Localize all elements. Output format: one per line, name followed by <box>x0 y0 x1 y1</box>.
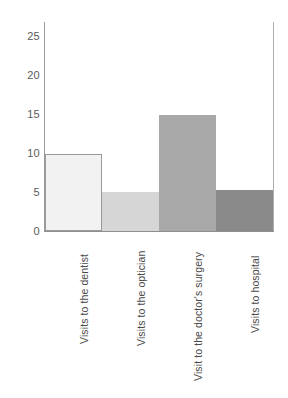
y-axis-tick-label: 10 <box>6 148 40 159</box>
bar-chart: 25 20 15 10 5 0 Visits to the dentist Vi… <box>0 0 288 398</box>
bar-visit-to-the-doctors-surgery <box>159 115 216 231</box>
x-axis-label-hospital: Visits to hospital <box>250 256 261 333</box>
bar-visits-to-hospital <box>216 190 273 231</box>
x-axis-label-dentist: Visits to the dentist <box>79 254 90 344</box>
y-axis-tick-label: 0 <box>6 226 40 237</box>
x-axis-category-labels: Visits to the dentist Visits to the opti… <box>45 236 273 396</box>
x-axis-label-doctors-surgery: Visit to the doctor's surgery <box>193 252 204 381</box>
y-axis-tick-label: 20 <box>6 70 40 81</box>
bar-visits-to-the-dentist <box>45 154 102 231</box>
x-axis-label-optician: Visits to the optician <box>136 251 147 346</box>
right-axis-line <box>273 22 274 232</box>
y-axis-tick-labels: 25 20 15 10 5 0 <box>0 0 40 398</box>
y-axis-tick-label: 25 <box>6 31 40 42</box>
x-axis-line <box>44 231 274 232</box>
bar-series <box>45 22 273 231</box>
bar-visits-to-the-optician <box>102 192 159 231</box>
y-axis-tick-label: 15 <box>6 109 40 120</box>
y-axis-tick-label: 5 <box>6 187 40 198</box>
